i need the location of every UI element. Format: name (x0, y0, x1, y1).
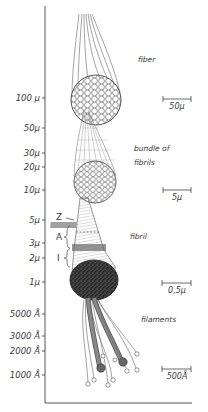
bundle-label-line1: bundle of (134, 144, 169, 154)
filaments-label: filaments (141, 315, 176, 325)
scale-bars (162, 96, 191, 372)
a-band-label: A (56, 232, 62, 242)
tick-label-2000A: 2000 Å (0, 346, 40, 356)
scale-bar-label-filaments: 500Å (155, 372, 199, 382)
tick-label-2um: 2μ (0, 253, 40, 263)
fibril-label: fibril (130, 232, 147, 242)
tick-label-5um: 5μ (0, 215, 40, 225)
scale-bar-label-fibril: 0,5μ (155, 286, 199, 296)
scale-bar-label-fiber: 50μ (155, 102, 199, 112)
tick-label-50um: 50μ (0, 123, 40, 133)
tick-label-30um: 30μ (0, 148, 40, 158)
bundle-label-line2: fibrils (134, 158, 155, 168)
tick-label-3000A: 3000 Å (0, 331, 40, 341)
tick-label-20um: 20μ (0, 162, 40, 172)
i-band-label: I (57, 253, 60, 263)
tick-label-3um: 3μ (0, 238, 40, 248)
fiber-drawing (71, 14, 121, 125)
axis-lines (42, 6, 192, 403)
muscle-structure-diagram: 100 μ 50μ 30μ 20μ 10μ 5μ 3μ 2μ 1μ 5000 Å… (0, 0, 208, 412)
scale-bar-label-bundle: 5μ (155, 193, 199, 203)
z-line-label: Z (56, 212, 62, 222)
tick-label-5000A: 5000 Å (0, 309, 40, 319)
tick-label-10um: 10μ (0, 185, 40, 195)
fiber-label: fiber (138, 55, 155, 65)
tick-label-100um: 100 μ (0, 93, 40, 103)
tick-label-1000A: 1000 Å (0, 370, 40, 380)
filaments-drawing (83, 298, 140, 387)
tick-label-1um: 1μ (0, 277, 40, 287)
